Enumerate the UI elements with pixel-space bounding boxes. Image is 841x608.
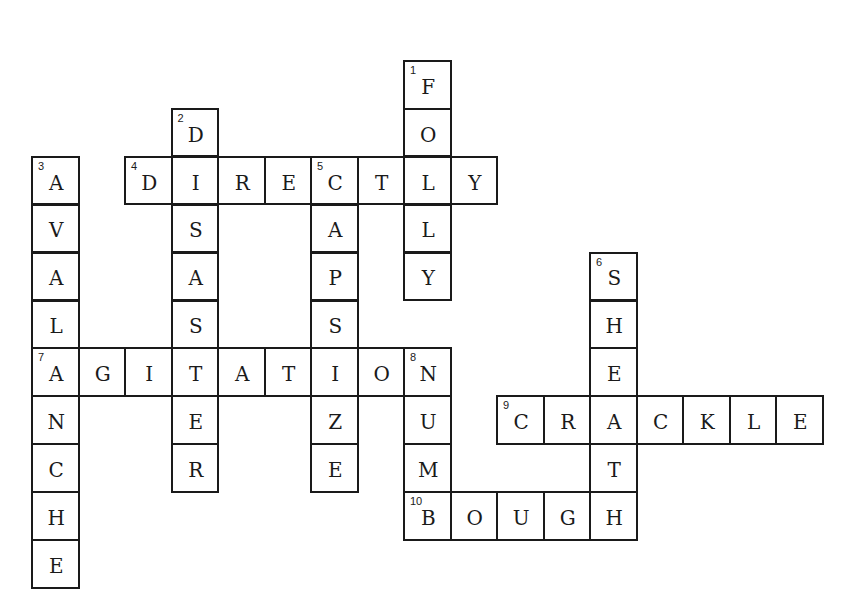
crossword-cell[interactable]: K [682, 395, 731, 445]
crossword-cell[interactable]: T [357, 156, 406, 206]
crossword-cell[interactable]: L [403, 156, 452, 206]
crossword-cell[interactable]: C5 [310, 156, 359, 206]
cell-letter: I [173, 158, 218, 204]
crossword-cell[interactable]: R [217, 156, 266, 206]
crossword-cell[interactable]: G [543, 491, 592, 541]
crossword-cell[interactable]: V [31, 204, 80, 254]
crossword-cell[interactable]: C [31, 443, 80, 493]
crossword-cell[interactable]: S [310, 300, 359, 350]
crossword-cell[interactable]: E [310, 443, 359, 493]
cell-letter: O [359, 349, 404, 395]
cell-letter: R [219, 158, 264, 204]
crossword-cell[interactable]: B10 [403, 491, 452, 541]
clue-number: 10 [410, 495, 422, 507]
crossword-cell[interactable]: T [264, 347, 313, 397]
crossword-cell[interactable]: I [171, 156, 220, 206]
cell-letter: K [684, 397, 729, 443]
crossword-cell[interactable]: D4 [124, 156, 173, 206]
clue-number: 2 [178, 112, 184, 124]
cell-letter: Y [452, 158, 497, 204]
clue-number: 9 [503, 399, 509, 411]
cell-letter: L [405, 206, 450, 252]
crossword-cell[interactable]: A [217, 347, 266, 397]
crossword-cell[interactable]: N [31, 395, 80, 445]
clue-number: 1 [410, 64, 416, 76]
cell-letter: H [33, 493, 78, 539]
crossword-cell[interactable]: S [171, 300, 220, 350]
crossword-cell[interactable]: U [496, 491, 545, 541]
crossword-cell[interactable]: P [310, 252, 359, 302]
crossword-cell[interactable]: M [403, 443, 452, 493]
cell-letter: H [591, 493, 636, 539]
clue-number: 5 [317, 160, 323, 172]
crossword-cell[interactable]: R [543, 395, 592, 445]
cell-letter: S [173, 302, 218, 348]
crossword-cell[interactable]: N8 [403, 347, 452, 397]
cell-letter: G [545, 493, 590, 539]
crossword-cell[interactable]: I [310, 347, 359, 397]
cell-letter: U [498, 493, 543, 539]
crossword-cell[interactable]: O [450, 491, 499, 541]
crossword-cell[interactable]: T [589, 443, 638, 493]
cell-letter: C [33, 445, 78, 491]
crossword-cell[interactable]: E [264, 156, 313, 206]
crossword-cell[interactable]: L [729, 395, 778, 445]
crossword-cell[interactable]: S [171, 204, 220, 254]
cell-letter: T [266, 349, 311, 395]
cell-letter: S [173, 206, 218, 252]
cell-letter: U [405, 397, 450, 443]
crossword-cell[interactable]: E [31, 539, 80, 589]
crossword-cell[interactable]: H [589, 491, 638, 541]
cell-letter: C [638, 397, 683, 443]
cell-letter: V [33, 206, 78, 252]
cell-letter: Y [405, 254, 450, 300]
crossword-cell[interactable]: Y [450, 156, 499, 206]
crossword-grid: F1OLLYD2ISASTERA3VALA7NCHED4REC5TYAPSIZE… [0, 0, 841, 608]
cell-letter: L [731, 397, 776, 443]
crossword-cell[interactable]: I [124, 347, 173, 397]
cell-letter: A [312, 206, 357, 252]
cell-letter: G [80, 349, 125, 395]
crossword-cell[interactable]: E [171, 395, 220, 445]
cell-letter: I [126, 349, 171, 395]
cell-letter: E [173, 397, 218, 443]
crossword-cell[interactable]: A [310, 204, 359, 254]
cell-letter: A [173, 254, 218, 300]
crossword-cell[interactable]: S6 [589, 252, 638, 302]
crossword-cell[interactable]: A [171, 252, 220, 302]
crossword-cell[interactable]: D2 [171, 108, 220, 158]
crossword-cell[interactable]: A [589, 395, 638, 445]
crossword-cell[interactable]: E [589, 347, 638, 397]
crossword-cell[interactable]: O [403, 108, 452, 158]
cell-letter: R [173, 445, 218, 491]
crossword-cell[interactable]: C [636, 395, 685, 445]
cell-letter: T [173, 349, 218, 395]
clue-number: 4 [131, 160, 137, 172]
crossword-cell[interactable]: A [31, 252, 80, 302]
crossword-cell[interactable]: L [403, 204, 452, 254]
cell-letter: L [405, 158, 450, 204]
crossword-cell[interactable]: E [775, 395, 824, 445]
crossword-cell[interactable]: H [31, 491, 80, 541]
crossword-cell[interactable]: T [171, 347, 220, 397]
cell-letter: O [452, 493, 497, 539]
cell-letter: T [359, 158, 404, 204]
crossword-cell[interactable]: U [403, 395, 452, 445]
crossword-cell[interactable]: A3 [31, 156, 80, 206]
cell-letter: N [33, 397, 78, 443]
clue-number: 8 [410, 351, 416, 363]
clue-number: 6 [596, 256, 602, 268]
crossword-cell[interactable]: O [357, 347, 406, 397]
crossword-cell[interactable]: Z [310, 395, 359, 445]
crossword-cell[interactable]: L [31, 300, 80, 350]
cell-letter: S [312, 302, 357, 348]
crossword-cell[interactable]: G [78, 347, 127, 397]
cell-letter: A [219, 349, 264, 395]
crossword-cell[interactable]: H [589, 300, 638, 350]
cell-letter: A [591, 397, 636, 443]
crossword-cell[interactable]: R [171, 443, 220, 493]
crossword-cell[interactable]: C9 [496, 395, 545, 445]
crossword-cell[interactable]: Y [403, 252, 452, 302]
crossword-cell[interactable]: F1 [403, 60, 452, 110]
crossword-cell[interactable]: A7 [31, 347, 80, 397]
